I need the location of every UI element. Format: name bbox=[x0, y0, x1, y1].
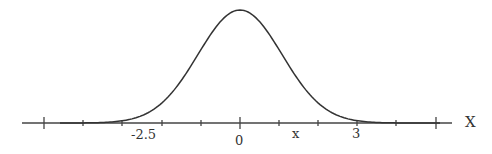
tick-label-x: x bbox=[292, 127, 299, 140]
tick-label-neg-2-5: -2.5 bbox=[131, 128, 156, 141]
bell-curve bbox=[60, 10, 440, 123]
axis-label-x: X bbox=[465, 115, 476, 130]
tick-label-zero: 0 bbox=[235, 134, 243, 147]
tick-label-three: 3 bbox=[352, 127, 360, 140]
normal-curve-chart bbox=[0, 0, 492, 154]
